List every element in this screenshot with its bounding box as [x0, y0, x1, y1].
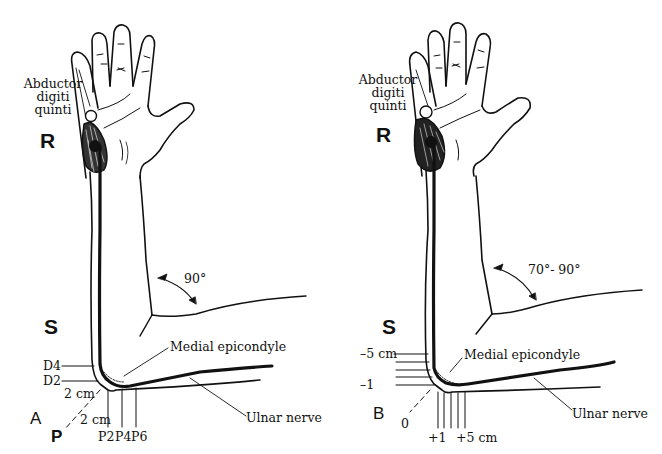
panel-b-marker-plus5: +5 cm	[456, 432, 497, 445]
panel-a-ulnar-nerve-label: Ulnar nerve	[246, 412, 322, 425]
panel-a-recording-label: R	[40, 130, 55, 151]
panel-a-distance-lower: 2 cm	[80, 414, 111, 427]
panel-a-epicondyle-label: Medial epicondyle	[170, 341, 286, 354]
arm-illustrations	[0, 0, 662, 454]
panel-a-letter: A	[30, 410, 41, 427]
panel-b-arm	[394, 23, 642, 428]
panel-a-marker-p2: P2	[98, 431, 114, 444]
panel-a-distance-upper: 2 cm	[64, 388, 95, 401]
panel-b-recording-label: R	[376, 124, 391, 145]
panel-b-letter: B	[373, 405, 384, 422]
panel-b-stimulation-label: S	[382, 316, 396, 337]
panel-b-marker-minus5: –5 cm	[360, 348, 397, 361]
panel-a-marker-p4: P4	[115, 431, 131, 444]
panel-a-arm	[62, 25, 306, 430]
ulnar-nerve-diagram: Abductor digiti quinti R S 90° Medial ep…	[0, 0, 662, 454]
panel-b-muscle-label-line3: quinti	[352, 100, 424, 113]
panel-a-axis-p-label: P	[51, 428, 62, 445]
panel-b-ulnar-nerve-label: Ulnar nerve	[572, 408, 648, 421]
panel-b-epicondyle-label: Medial epicondyle	[464, 349, 580, 362]
panel-a-marker-d4: D4	[43, 360, 61, 373]
panel-a-marker-p6: P6	[131, 431, 147, 444]
panel-a-marker-d2: D2	[43, 375, 61, 388]
panel-b-marker-minus1: –1	[360, 379, 374, 392]
panel-a-angle-label: 90°	[184, 273, 206, 286]
panel-b-marker-origin: 0	[401, 418, 409, 431]
panel-b-marker-plus1: +1	[428, 432, 446, 445]
panel-a-muscle-label-line3: quinti	[18, 104, 88, 117]
panel-a-stimulation-label: S	[44, 316, 58, 337]
panel-b-angle-label: 70°- 90°	[528, 264, 581, 277]
